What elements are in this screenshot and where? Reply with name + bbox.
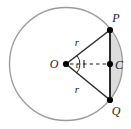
radius-label-upper: r <box>75 36 80 48</box>
radius-label-lower: r <box>75 83 80 95</box>
point-marker-p <box>107 27 113 33</box>
point-label-q: Q <box>112 104 121 118</box>
point-marker-q <box>107 97 113 103</box>
point-label-c: C <box>115 58 124 72</box>
geometry-figure: O P C Q r r t <box>0 0 131 129</box>
point-marker-o <box>63 61 69 67</box>
point-label-o: O <box>50 57 59 71</box>
geometry-canvas: O P C Q r r t <box>0 0 131 129</box>
point-label-p: P <box>111 11 120 25</box>
point-marker-c <box>107 61 113 67</box>
